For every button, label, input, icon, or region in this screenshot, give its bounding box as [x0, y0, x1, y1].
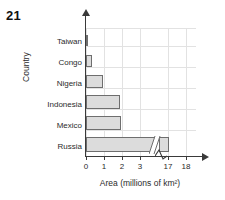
x-tick-2: [122, 156, 123, 160]
gridline-horizontal-2: [86, 67, 196, 68]
bar-mexico: [86, 116, 121, 130]
y-tick-label-congo: Congo: [58, 58, 82, 68]
gridline-horizontal-4: [86, 109, 196, 110]
x-tick-label-18: 18: [179, 162, 193, 171]
x-axis-label: Area (millions of km²): [70, 178, 210, 188]
x-tick-label-3: 3: [133, 162, 147, 171]
x-tick-18: [186, 156, 187, 160]
x-tick-0: [86, 156, 87, 160]
y-tick-label-taiwan: Taiwan: [57, 37, 82, 47]
y-tick-label-mexico: Mexico: [57, 121, 82, 131]
x-tick-label-1: 1: [97, 162, 111, 171]
x-tick-label-0: 0: [79, 162, 93, 171]
bar-congo: [86, 55, 92, 67]
y-tick-label-nigeria: Nigeria: [57, 79, 82, 89]
bar-taiwan: [86, 35, 88, 46]
axis-break-zigzag-icon: [155, 149, 173, 161]
bar-nigeria: [86, 75, 103, 88]
y-axis-arrow-icon: [82, 9, 90, 16]
gridline-vertical-18: [186, 28, 187, 156]
y-axis-line: [85, 14, 86, 156]
question-number: 21: [6, 8, 21, 23]
gridline-horizontal-5: [86, 130, 196, 131]
gridline-horizontal-3: [86, 88, 196, 89]
x-tick-1: [104, 156, 105, 160]
x-tick-label-17: 17: [161, 162, 175, 171]
gridline-horizontal-0: [86, 28, 196, 29]
chart-figure: 21 Country Taiwan Congo Nigeria Indonesi…: [0, 0, 225, 200]
x-axis-arrow-icon: [202, 153, 209, 161]
x-tick-label-2: 2: [115, 162, 129, 171]
y-tick-label-indonesia: Indonesia: [47, 100, 82, 110]
bar-indonesia: [86, 95, 120, 109]
y-axis-tick-labels: Taiwan Congo Nigeria Indonesia Mexico Ru…: [28, 33, 84, 153]
bar-russia-segment-left: [86, 137, 155, 152]
gridline-horizontal-1: [86, 46, 196, 47]
y-tick-label-russia: Russia: [58, 142, 82, 152]
x-tick-3: [140, 156, 141, 160]
plot-area: [86, 28, 196, 156]
